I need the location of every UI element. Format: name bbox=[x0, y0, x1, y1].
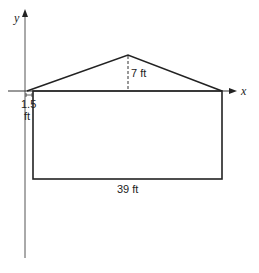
house-diagram bbox=[0, 0, 259, 273]
x-axis-label: x bbox=[241, 85, 246, 97]
width-label: 39 ft bbox=[117, 183, 138, 195]
y-axis-label: y bbox=[14, 12, 19, 24]
x-axis-arrow-icon bbox=[229, 88, 237, 94]
offset-unit-label: ft bbox=[24, 110, 30, 122]
roof-height-label: 7 ft bbox=[131, 67, 146, 79]
y-axis-arrow-icon bbox=[22, 9, 28, 17]
roof-outline bbox=[27, 55, 222, 91]
house-body-rectangle bbox=[33, 91, 222, 179]
offset-value-label: 1.5 bbox=[21, 98, 36, 110]
